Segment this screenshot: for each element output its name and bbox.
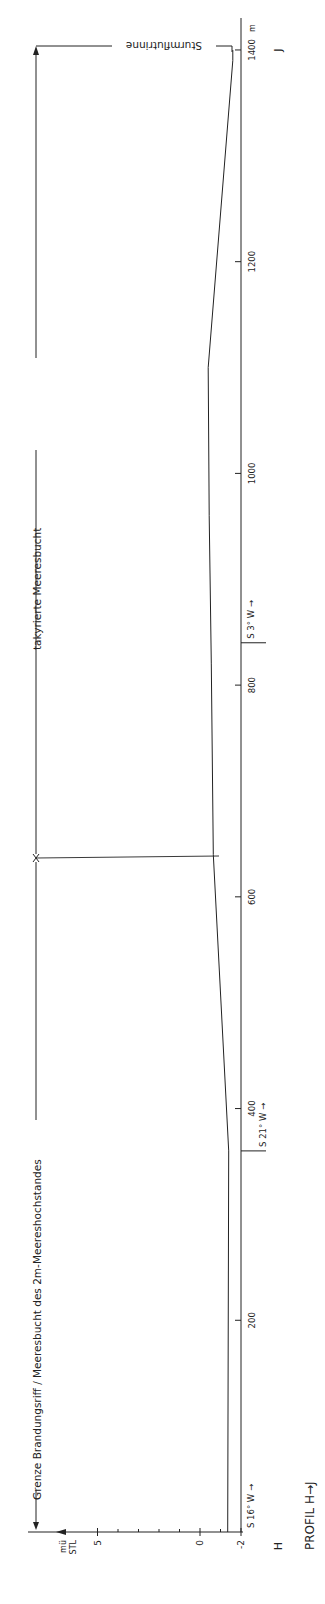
elevation-axis-arrow-icon <box>56 1529 66 1535</box>
elevation-axis-ticks: 50-2 <box>93 1528 247 1549</box>
distance-tick-label: 200 <box>247 1312 257 1328</box>
elevation-unit-label-2: STL <box>69 1539 78 1554</box>
distance-tick-label: 1000 <box>247 463 257 485</box>
zone-arrow-up-icon <box>33 46 39 55</box>
distance-tick-label: 1400 <box>247 39 257 61</box>
zone-label-brandungsriff: Grenze Brandungsriff / Meeresbucht des 2… <box>31 1159 43 1500</box>
distance-tick-label: 600 <box>247 889 257 905</box>
distance-tick-label: 400 <box>247 1100 257 1116</box>
zone-label-takyr: takyrierte Meeresbucht <box>31 528 43 650</box>
figure-title: PROFIL H→J <box>303 1481 317 1550</box>
end-point-label: J <box>272 48 285 52</box>
distance-axis-ticks: 200400600800100012001400 <box>235 39 257 1328</box>
distance-tick-label: 1200 <box>247 251 257 273</box>
bearing-label: S 3° W → <box>246 600 256 639</box>
zone-label-sturmflutrinne: Sturmflutrinne <box>126 40 202 52</box>
bearing-label: S 16° W → <box>246 1484 256 1528</box>
bearing-labels: S 16° W →S 21° W →S 3° W → <box>241 600 268 1528</box>
zone-boundary-line <box>36 856 219 858</box>
profile-diagram: 200400600800100012001400 50-2 mü STL Gre… <box>0 0 325 1604</box>
elevation-tick-label: 0 <box>195 1540 205 1546</box>
distance-tick-label: 800 <box>247 677 257 693</box>
distance-unit-label: m <box>248 24 257 32</box>
zone-arrow-down-icon <box>33 1522 39 1530</box>
terrain-profile-line <box>208 50 233 1532</box>
bearing-label: S 21° W → <box>258 1103 268 1147</box>
start-point-label: H <box>272 1542 285 1550</box>
elevation-tick-label: 5 <box>93 1540 103 1546</box>
elevation-unit-label: mü <box>59 1540 68 1553</box>
elevation-tick-label: -2 <box>236 1540 246 1549</box>
